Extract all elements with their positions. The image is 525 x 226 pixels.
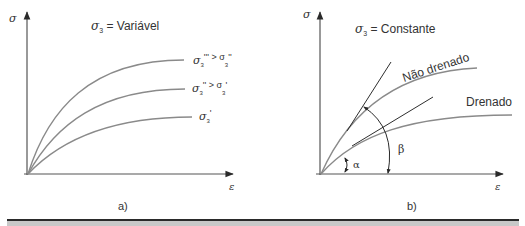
panel-b-title: σ3 = Constante [355, 22, 436, 37]
panel-a-caption: a) [118, 200, 128, 212]
panel-a: σ ε σ3 = Variável σ3''' > σ3'' σ3'' > σ3… [9, 12, 234, 212]
y-axis-label-b: σ [303, 8, 311, 21]
panel-b-caption: b) [407, 200, 417, 212]
curve-sigma3-prime [28, 117, 192, 174]
y-axis-label-a: σ [9, 12, 17, 25]
panel-b: σ ε σ3 = Constante Não drenado Drenado α… [303, 8, 512, 212]
angle-alpha-label: α [353, 159, 360, 170]
curve-label-drained: Drenado [466, 95, 512, 109]
curve-sigma3-triple-prime [28, 60, 184, 174]
stress-strain-diagram: σ ε σ3 = Variável σ3''' > σ3'' σ3'' > σ3… [0, 0, 525, 226]
curve-undrained [321, 68, 477, 174]
panel-a-title: σ3 = Variável [91, 19, 159, 34]
x-axis-label-b: ε [495, 181, 500, 192]
curve-drained [321, 115, 512, 174]
curve-label-sigma3-double-prime: σ3'' > σ3' [192, 80, 227, 96]
curve-label-sigma3-triple-prime: σ3''' > σ3'' [193, 52, 232, 68]
angle-beta-arc [364, 107, 390, 173]
curve-label-undrained: Não drenado [401, 50, 472, 85]
bottom-gray-band [7, 221, 519, 226]
x-axis-label-a: ε [229, 181, 234, 192]
curve-sigma3-double-prime [28, 89, 185, 174]
angle-alpha-arc [345, 158, 347, 172]
curve-label-sigma3-prime: σ3' [199, 108, 212, 124]
angle-beta-label: β [398, 143, 404, 156]
